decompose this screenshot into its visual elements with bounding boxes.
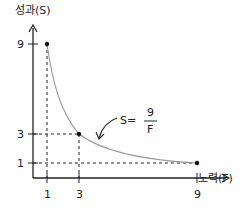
curve-s-equals-9-over-f: [47, 44, 197, 163]
y-tick-label-1: 1: [17, 157, 24, 170]
x-tick-label-9: 9: [194, 188, 201, 201]
chart: 성과(S) 노력(F) 9 3 1 1 3 9 S= 9 F: [0, 0, 242, 210]
equation-numerator: 9: [147, 106, 154, 119]
equation-denominator: F: [147, 123, 153, 136]
point-3-3: [77, 132, 81, 136]
x-axis-label: 노력(F): [198, 172, 233, 185]
y-tick-label-3: 3: [17, 128, 24, 141]
annotation-arrow-icon: [99, 118, 117, 138]
equation-lhs: S=: [120, 114, 136, 127]
x-tick-label-1: 1: [44, 188, 51, 201]
x-tick-label-3: 3: [76, 188, 83, 201]
point-9-1: [195, 161, 199, 165]
y-axis-label: 성과(S): [15, 4, 51, 17]
y-tick-label-9: 9: [17, 38, 24, 51]
point-1-9: [45, 42, 49, 46]
